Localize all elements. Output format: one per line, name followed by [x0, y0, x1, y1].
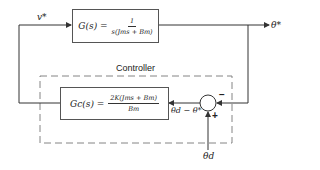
plant-fraction: 1 s(Jms + Bm) — [112, 17, 153, 36]
controller-fraction: 2K(Jms + Bm) Bm — [108, 94, 159, 113]
summing-junction — [200, 95, 216, 111]
plant-block: G(s) = 1 s(Jms + Bm) — [72, 9, 159, 43]
plant-transfer-function: G(s) = 1 s(Jms + Bm) — [78, 17, 152, 36]
feedback-sign: − — [219, 90, 225, 100]
controller-block: Gc(s) = 2K(Jms + Bm) Bm — [60, 87, 169, 120]
reference-input-label: θd — [203, 152, 214, 161]
plant-output-label: θ* — [271, 21, 281, 30]
plant-denominator: s(Jms + Bm) — [112, 27, 153, 36]
controller-denominator: Bm — [128, 104, 139, 113]
error-signal-label: θd − θ* — [171, 107, 202, 115]
controller-lhs: Gc(s) = — [70, 99, 104, 109]
plant-input-label: v* — [37, 13, 47, 22]
plant-numerator: 1 — [128, 17, 136, 27]
plant-lhs: G(s) = — [78, 21, 107, 31]
reference-sign: + — [212, 111, 218, 121]
controller-numerator: 2K(Jms + Bm) — [108, 94, 159, 104]
controller-label: Controller — [116, 64, 155, 73]
controller-transfer-function: Gc(s) = 2K(Jms + Bm) Bm — [70, 94, 159, 113]
